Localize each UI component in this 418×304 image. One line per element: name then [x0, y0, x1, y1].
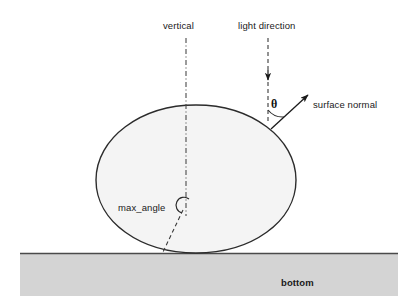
diagram-graphics — [0, 0, 418, 304]
vertical-label: vertical — [163, 21, 194, 31]
theta-label: θ — [271, 98, 277, 110]
light-direction-label: light direction — [238, 21, 295, 31]
surface-normal-label: surface normal — [313, 100, 377, 110]
bottom-surface — [20, 254, 398, 297]
diagram-canvas: vertical light direction θ surface norma… — [0, 0, 418, 304]
droplet-shape — [96, 105, 296, 253]
bottom-label: bottom — [281, 278, 314, 288]
max-angle-label: max_angle — [118, 203, 165, 213]
